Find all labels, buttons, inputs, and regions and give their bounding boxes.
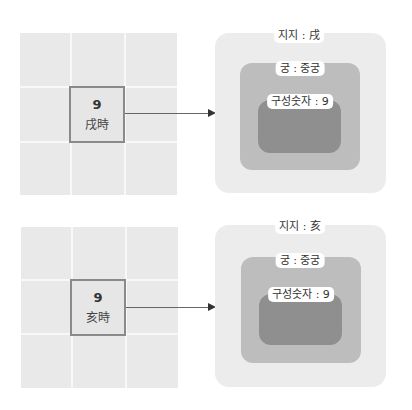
inner-label: 구성숫자 : 9 (267, 94, 333, 109)
outer-label: 지지 : 戌 (274, 28, 324, 43)
center-cell: 9 亥時 (70, 279, 126, 336)
inner-label: 구성숫자 : 9 (268, 287, 334, 302)
outer-label: 지지 : 亥 (275, 219, 325, 234)
center-cell: 9 戌時 (69, 86, 125, 143)
middle-label: 궁 : 중궁 (276, 253, 325, 268)
cell-number: 9 (93, 289, 102, 307)
cell-number: 9 (92, 96, 101, 114)
arrow-line (125, 113, 209, 114)
cell-label: 戌時 (85, 116, 109, 134)
cell-label: 亥時 (86, 309, 110, 327)
middle-label: 궁 : 중궁 (276, 61, 325, 76)
arrow-line (126, 307, 209, 308)
